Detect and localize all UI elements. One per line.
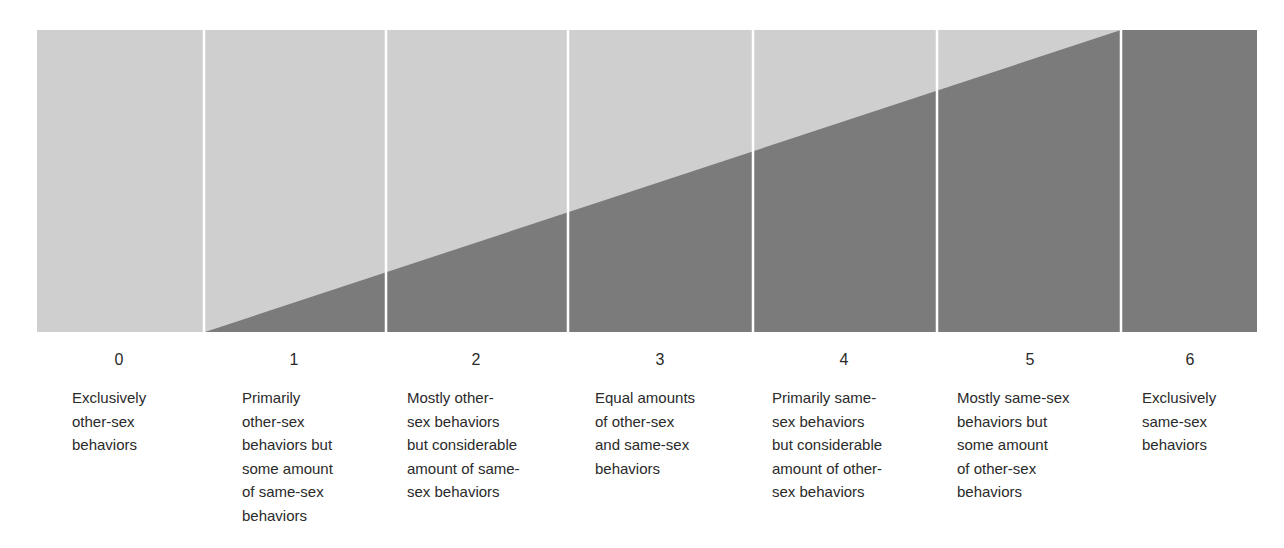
scale-description-5: Mostly same-sex behaviors but some amoun… (957, 386, 1070, 504)
scale-description-6: Exclusively same-sex behaviors (1142, 386, 1216, 457)
kinsey-scale-figure: 0 1 2 3 4 5 6 Exclusively other-sex beha… (0, 0, 1284, 548)
scale-description-4: Primarily same- sex behaviors but consid… (772, 386, 882, 504)
scale-description-2: Mostly other- sex behaviors but consider… (407, 386, 520, 504)
scale-number-2: 2 (472, 351, 481, 369)
scale-number-4: 4 (840, 351, 849, 369)
scale-description-1: Primarily other-sex behaviors but some a… (242, 386, 333, 527)
scale-number-5: 5 (1026, 351, 1035, 369)
scale-number-6: 6 (1186, 351, 1195, 369)
scale-description-3: Equal amounts of other-sex and same-sex … (595, 386, 695, 480)
scale-description-0: Exclusively other-sex behaviors (72, 386, 146, 457)
scale-number-0: 0 (115, 351, 124, 369)
scale-number-1: 1 (290, 351, 299, 369)
scale-number-3: 3 (656, 351, 665, 369)
